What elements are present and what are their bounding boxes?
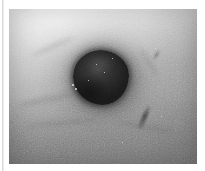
page-canvas <box>0 0 205 171</box>
clinical-photograph <box>9 9 197 164</box>
plate-vignette <box>9 9 197 164</box>
left-margin-rule-secondary <box>3 0 4 171</box>
